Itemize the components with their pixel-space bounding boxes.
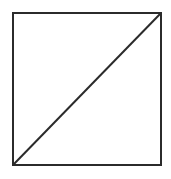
square-diagonal-figure <box>0 0 171 179</box>
diagonal-line <box>13 13 161 165</box>
diagram-canvas <box>0 0 171 179</box>
